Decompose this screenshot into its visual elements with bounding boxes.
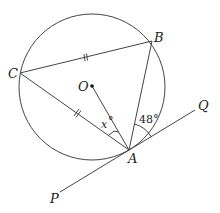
geometry-diagram: A B C O P Q x ° 48° bbox=[0, 0, 220, 213]
chord-ca bbox=[20, 73, 129, 150]
label-o: O bbox=[78, 79, 89, 94]
label-c: C bbox=[8, 66, 18, 81]
center-point bbox=[90, 84, 94, 88]
angle-label-48: 48° bbox=[139, 113, 159, 126]
chord-cb bbox=[20, 41, 152, 73]
label-p: P bbox=[49, 191, 59, 206]
label-b: B bbox=[153, 30, 164, 45]
angle-label-x-deg: ° bbox=[108, 115, 114, 128]
label-a: A bbox=[127, 151, 137, 166]
label-q: Q bbox=[198, 98, 209, 113]
angle-label-x: x bbox=[101, 118, 108, 131]
angle-arc-x bbox=[109, 131, 119, 136]
